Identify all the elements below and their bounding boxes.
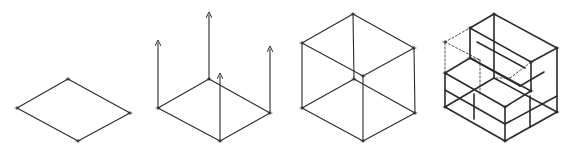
isometric-sketch-canvas	[0, 0, 572, 152]
sketch-edge	[470, 28, 531, 62]
sketch-edge	[505, 96, 557, 124]
sketch-edge	[302, 14, 353, 43]
sketch-edge	[520, 72, 544, 86]
hidden-edge	[445, 28, 470, 42]
sketch-edge	[302, 108, 363, 141]
hidden-edge	[445, 42, 480, 60]
sketch-edge	[220, 113, 270, 141]
sketch-edge	[68, 79, 130, 113]
sketch-edge	[505, 112, 557, 141]
sketch-edge	[158, 108, 220, 141]
sketch-edge	[445, 107, 505, 141]
sketch-edge	[470, 14, 494, 28]
sketch-edge	[353, 14, 354, 79]
hidden-edge	[510, 62, 531, 78]
sketch-edge	[505, 91, 531, 107]
sketch-edge	[353, 14, 414, 48]
sketch-edge	[17, 79, 68, 108]
sketch-edge	[363, 113, 415, 141]
sketch-edge	[302, 79, 354, 108]
figure-step-4-l-shaped-solid	[443, 13, 559, 143]
sketch-edge	[445, 90, 505, 124]
sketch-edge	[531, 48, 557, 62]
sketch-edge	[414, 48, 415, 113]
sketch-edge	[17, 108, 78, 141]
sketch-edge	[445, 78, 494, 107]
sketch-edge	[494, 14, 557, 48]
figure-step-2-vertical-projections	[156, 15, 272, 143]
figure-step-3-wireframe-cube	[300, 13, 417, 143]
sketch-edge	[158, 79, 209, 108]
sketch-edge	[470, 58, 520, 86]
sketch-edge	[78, 113, 130, 141]
sketch-edge	[209, 79, 270, 113]
figure-step-1-base-rhombus	[15, 78, 132, 143]
sketch-edge	[363, 48, 414, 76]
sketch-edge	[445, 58, 470, 73]
